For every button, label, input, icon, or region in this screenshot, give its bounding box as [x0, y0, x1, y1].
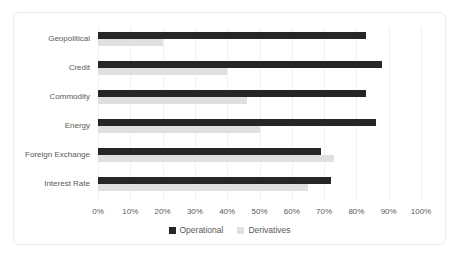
- category-label: Foreign Exchange: [14, 145, 90, 165]
- category-row: Energy: [98, 114, 421, 143]
- x-tick-label: 10%: [112, 207, 148, 216]
- legend-item-operational: Operational: [169, 225, 224, 235]
- bar-rows: GeopoliticalCreditCommodityEnergyForeign…: [98, 27, 421, 201]
- x-tick-label: 80%: [338, 207, 374, 216]
- bar-derivatives-geopolitical: [98, 39, 163, 46]
- category-row: Commodity: [98, 85, 421, 114]
- bar-derivatives-energy: [98, 126, 260, 133]
- x-tick-label: 100%: [403, 207, 439, 216]
- bar-operational-foreign-exchange: [98, 148, 321, 155]
- x-axis: 0%10%20%30%40%50%60%70%80%90%100%: [98, 207, 421, 219]
- category-row: Credit: [98, 56, 421, 85]
- legend-swatch-icon: [237, 227, 244, 234]
- legend: OperationalDerivatives: [14, 225, 445, 235]
- legend-label: Derivatives: [248, 225, 290, 235]
- bar-operational-geopolitical: [98, 32, 366, 39]
- legend-label: Operational: [180, 225, 224, 235]
- category-label: Credit: [14, 58, 90, 78]
- category-label: Energy: [14, 116, 90, 136]
- x-tick-label: 0%: [80, 207, 116, 216]
- category-row: Interest Rate: [98, 172, 421, 201]
- legend-swatch-icon: [169, 227, 176, 234]
- legend-item-derivatives: Derivatives: [237, 225, 290, 235]
- bar-operational-commodity: [98, 90, 366, 97]
- grouped-bar-chart: GeopoliticalCreditCommodityEnergyForeign…: [13, 12, 446, 245]
- x-tick-label: 50%: [242, 207, 278, 216]
- x-tick-label: 40%: [209, 207, 245, 216]
- x-tick-label: 70%: [306, 207, 342, 216]
- category-label: Geopolitical: [14, 29, 90, 49]
- bar-operational-energy: [98, 119, 376, 126]
- category-row: Foreign Exchange: [98, 143, 421, 172]
- bar-derivatives-credit: [98, 68, 227, 75]
- bar-derivatives-foreign-exchange: [98, 155, 334, 162]
- category-label: Interest Rate: [14, 174, 90, 194]
- x-tick-label: 60%: [274, 207, 310, 216]
- bar-derivatives-interest-rate: [98, 184, 308, 191]
- category-label: Commodity: [14, 87, 90, 107]
- gridline: [421, 27, 422, 199]
- plot-area: GeopoliticalCreditCommodityEnergyForeign…: [98, 27, 421, 201]
- x-tick-label: 30%: [177, 207, 213, 216]
- x-tick-label: 20%: [145, 207, 181, 216]
- x-tick-label: 90%: [371, 207, 407, 216]
- bar-operational-credit: [98, 61, 382, 68]
- bar-derivatives-commodity: [98, 97, 247, 104]
- bar-operational-interest-rate: [98, 177, 331, 184]
- category-row: Geopolitical: [98, 27, 421, 56]
